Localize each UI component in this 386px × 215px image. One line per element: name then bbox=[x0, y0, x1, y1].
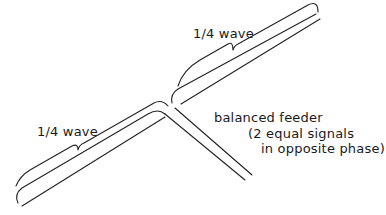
dipole-diagram: 1/4 wave 1/4 wave balanced feeder (2 equ… bbox=[0, 0, 386, 215]
feeder-label-line2: (2 equal signals bbox=[248, 127, 354, 140]
lower-element-brace bbox=[16, 102, 168, 186]
lower-element-label: 1/4 wave bbox=[37, 125, 98, 138]
upper-element-label: 1/4 wave bbox=[193, 27, 254, 40]
upper-element-brace bbox=[178, 4, 318, 86]
feeder-label-line1: balanced feeder bbox=[214, 111, 323, 124]
feeder-label-line3: in opposite phase) bbox=[261, 142, 385, 155]
